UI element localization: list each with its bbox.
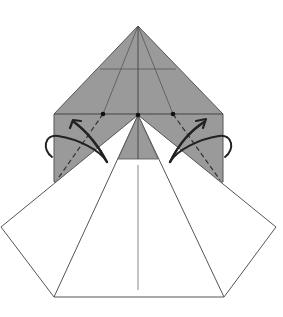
origami-diagram: [0, 0, 283, 317]
right-dot: [171, 112, 176, 117]
left-dot: [101, 112, 106, 117]
center-dot: [136, 113, 141, 118]
